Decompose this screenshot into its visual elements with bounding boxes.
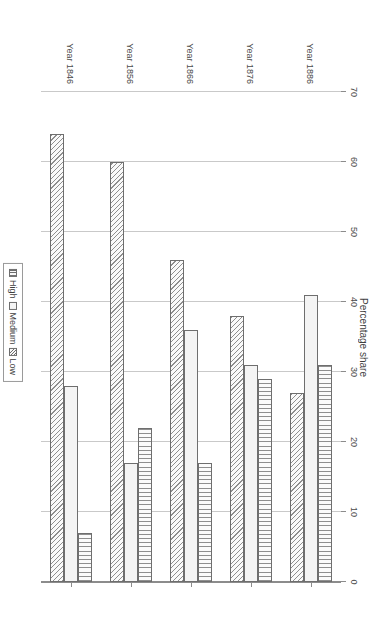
category-tick [71, 582, 72, 587]
legend-item-low[interactable]: Low [8, 347, 18, 375]
bar-low[interactable] [110, 162, 124, 582]
bar-group: Year 1846 [41, 92, 101, 582]
bar-medium[interactable] [244, 365, 258, 582]
bar-low[interactable] [230, 316, 244, 582]
legend-item-medium[interactable]: Medium [8, 301, 18, 344]
bar-high[interactable] [198, 463, 212, 582]
legend-label-high: High [8, 280, 18, 299]
category-tick [131, 582, 132, 587]
rotated-figure-wrapper: 010203040506070Year 1846Year 1856Year 18… [0, 0, 381, 637]
bar-medium[interactable] [304, 295, 318, 582]
bar-low[interactable] [50, 134, 64, 582]
value-tick-70 [341, 91, 346, 92]
bar-low[interactable] [290, 393, 304, 582]
value-tick-0 [341, 581, 346, 582]
bar-group: Year 1856 [101, 92, 161, 582]
bar-chart-figure: 010203040506070Year 1846Year 1856Year 18… [0, 0, 381, 637]
category-label: Year 1846 [65, 43, 75, 84]
bar-high[interactable] [138, 428, 152, 582]
value-tick-60 [341, 161, 346, 162]
bar-group: Year 1876 [221, 92, 281, 582]
category-label: Year 1876 [245, 43, 255, 84]
value-axis-title: Percentage share [358, 92, 369, 583]
chart-legend: Low Medium High [3, 263, 23, 382]
category-label: Year 1856 [125, 43, 135, 84]
bar-high[interactable] [318, 365, 332, 582]
bar-medium[interactable] [124, 463, 138, 582]
legend-swatch-medium-icon [9, 301, 17, 309]
value-tick-40 [341, 301, 346, 302]
value-tick-50 [341, 231, 346, 232]
legend-label-low: Low [8, 358, 18, 375]
bar-group: Year 1866 [161, 92, 221, 582]
bar-low[interactable] [170, 260, 184, 582]
legend-item-high[interactable]: High [8, 269, 18, 299]
value-tick-30 [341, 371, 346, 372]
value-tick-10 [341, 511, 346, 512]
bar-group: Year 1886 [281, 92, 341, 582]
category-tick [251, 582, 252, 587]
category-tick [191, 582, 192, 587]
plot-area: 010203040506070Year 1846Year 1856Year 18… [41, 92, 341, 583]
bar-high[interactable] [78, 533, 92, 582]
value-tick-20 [341, 441, 346, 442]
bar-medium[interactable] [64, 386, 78, 582]
legend-swatch-low-icon [9, 347, 17, 355]
legend-swatch-high-icon [9, 269, 17, 277]
category-tick [311, 582, 312, 587]
bar-medium[interactable] [184, 330, 198, 582]
bar-high[interactable] [258, 379, 272, 582]
legend-label-medium: Medium [8, 312, 18, 344]
category-label: Year 1866 [185, 43, 195, 84]
category-label: Year 1886 [305, 43, 315, 84]
